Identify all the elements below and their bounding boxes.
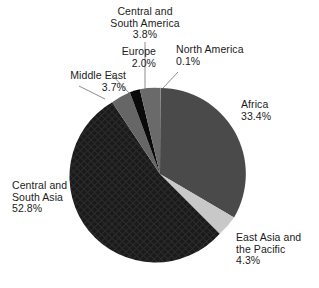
pie-label-europe-line1: Europe xyxy=(46,46,156,58)
pie-label-middle-east-percent: 3.7% xyxy=(16,82,126,94)
pie-label-central-south-america-percent: 3.8% xyxy=(84,29,206,41)
pie-label-europe: Europe 2.0% xyxy=(46,46,156,69)
pie-label-africa-line1: Africa xyxy=(241,99,313,111)
pie-label-central-south-america-line1: Central and xyxy=(84,6,206,18)
pie-label-central-south-america: Central and South America 3.8% xyxy=(84,6,206,41)
pie-slices xyxy=(69,88,245,263)
pie-label-central-south-asia-line1: Central and xyxy=(12,180,108,192)
pie-label-east-asia-pacific-line1: East Asia and xyxy=(236,232,318,244)
pie-label-europe-percent: 2.0% xyxy=(46,58,156,70)
pie-label-east-asia-pacific-percent: 4.3% xyxy=(236,255,318,267)
pie-label-middle-east: Middle East 3.7% xyxy=(16,70,126,93)
leader-line-north-america xyxy=(163,72,178,88)
pie-label-east-asia-pacific: East Asia and the Pacific 4.3% xyxy=(236,232,318,267)
pie-label-africa: Africa 33.4% xyxy=(241,99,313,122)
pie-label-central-south-asia-percent: 52.8% xyxy=(12,203,108,215)
pie-label-middle-east-line1: Middle East xyxy=(16,70,126,82)
pie-label-north-america-line1: North America xyxy=(176,44,286,56)
pie-label-central-south-asia: Central and South Asia 52.8% xyxy=(12,180,108,215)
pie-label-africa-percent: 33.4% xyxy=(241,111,313,123)
pie-label-north-america-percent: 0.1% xyxy=(176,56,286,68)
pie-chart: Central and South America 3.8% North Ame… xyxy=(0,0,319,288)
pie-label-north-america: North America 0.1% xyxy=(176,44,286,67)
